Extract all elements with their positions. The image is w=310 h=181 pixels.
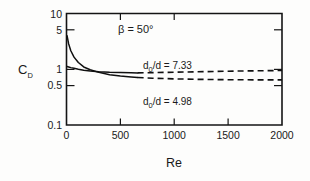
series-d0d4.98-dashed <box>138 78 282 80</box>
y-axis-title-sub: D <box>27 71 33 80</box>
series-d0d7.33-solid <box>67 67 138 73</box>
series-label-d0d-4.98: d0/d = 4.98 <box>143 96 192 110</box>
x-tick-label-1500: 1500 <box>216 129 240 141</box>
y-tick-label-0.1: 0.1 <box>47 119 62 131</box>
series-label-7.33-rest: /d = 7.33 <box>153 60 193 71</box>
x-tick-label-1000: 1000 <box>163 129 187 141</box>
y-tick-label-0.5: 0.5 <box>47 79 62 91</box>
svg-text:CD: CD <box>18 62 33 80</box>
chart-canvas: 10 5 1 0.5 0.1 0 500 1000 1500 2000 CD R… <box>0 0 310 181</box>
y-tick-label-1: 1 <box>56 63 62 75</box>
x-axis-title: Re <box>166 156 182 170</box>
y-tick-label-5: 5 <box>56 24 62 36</box>
series-label-4.98-rest: /d = 4.98 <box>153 96 193 107</box>
beta-annotation: β = 50° <box>118 23 154 35</box>
figure-container: 10 5 1 0.5 0.1 0 500 1000 1500 2000 CD R… <box>0 0 310 181</box>
series-d0d-4.98 <box>67 36 282 80</box>
y-tick-label-10: 10 <box>50 8 62 20</box>
x-tick-label-500: 500 <box>112 129 130 141</box>
y-axis-title-base: C <box>18 62 27 77</box>
x-tick-label-2000: 2000 <box>270 129 294 141</box>
x-tick-label-0: 0 <box>64 129 70 141</box>
y-axis-title: CD <box>18 62 33 80</box>
y-axis-ticks <box>67 30 283 86</box>
